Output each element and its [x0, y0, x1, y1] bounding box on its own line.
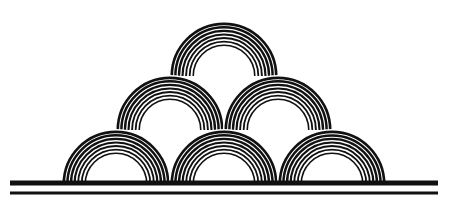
arch-bottom: [61, 129, 171, 184]
arch-bottom: [169, 129, 279, 184]
arch-group: [61, 21, 387, 184]
ground-line-thin: [10, 192, 438, 195]
arch-bottom: [277, 129, 387, 184]
arches-logo: [0, 0, 449, 208]
ground-line-thick: [10, 181, 438, 186]
arch-middle: [115, 75, 225, 130]
arch-top: [169, 21, 279, 76]
arch-middle: [223, 75, 333, 130]
ground-lines: [10, 181, 438, 195]
